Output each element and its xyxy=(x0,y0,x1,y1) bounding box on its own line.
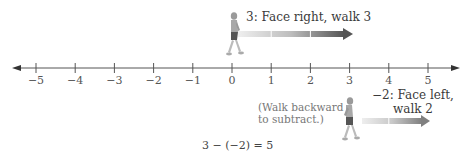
tick-label: 4 xyxy=(385,74,392,87)
note-line1: (Walk backward xyxy=(258,101,344,113)
number-line-diagram: −5 −4 −3 −2 −1 0 1 2 3 4 5 3: Face right… xyxy=(0,0,468,160)
tick-label: 5 xyxy=(425,74,432,87)
subtract-note: (Walk backward to subtract.) xyxy=(258,101,344,125)
note-line2: to subtract.) xyxy=(258,113,344,125)
left-arrowhead-icon xyxy=(12,65,21,71)
tick-label: −5 xyxy=(28,74,44,87)
step1-arrowhead-icon xyxy=(343,28,353,40)
step1-arrow xyxy=(238,28,353,40)
equation: 3 − (−2) = 5 xyxy=(202,140,273,153)
tick-label: 1 xyxy=(268,74,275,87)
step2-label-line2: walk 2 xyxy=(369,103,457,117)
tick-label: −2 xyxy=(145,74,161,87)
tick-label: −4 xyxy=(67,74,83,87)
step2-arrowhead-icon xyxy=(421,115,430,127)
axis xyxy=(12,63,460,73)
tick-label: 3 xyxy=(346,74,353,87)
step2-arrow xyxy=(362,115,430,127)
walking-person-backward-icon xyxy=(342,97,360,140)
step1-label: 3: Face right, walk 3 xyxy=(246,11,371,25)
step2-label-line1: −2: Face left, xyxy=(369,89,457,103)
tick-label: −3 xyxy=(106,74,122,87)
tick-label: 2 xyxy=(307,74,314,87)
tick-label: 0 xyxy=(229,74,236,87)
right-arrowhead-icon xyxy=(451,65,460,71)
step2-label: −2: Face left, walk 2 xyxy=(369,89,457,117)
tick-label: −1 xyxy=(185,74,201,87)
